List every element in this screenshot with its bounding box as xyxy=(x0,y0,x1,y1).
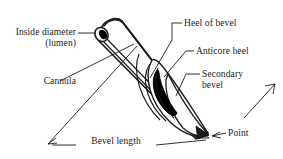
label-secondary-bevel-line1: Secondary xyxy=(202,69,243,79)
label-inside-diameter-line1: Inside diameter xyxy=(16,27,76,37)
label-bevel-length: Bevel length xyxy=(78,136,154,147)
label-secondary-bevel: Secondarybevel xyxy=(202,69,264,91)
bevel-length-extension-left xyxy=(48,46,137,144)
needle-anatomy-figure: Inside diameter(lumen) Cannula Heel of b… xyxy=(0,0,283,159)
bevel-length-baseline-right xyxy=(156,140,206,145)
label-secondary-bevel-line2: bevel xyxy=(202,80,223,90)
label-inside-diameter: Inside diameter(lumen) xyxy=(4,27,76,49)
label-cannula: Cannula xyxy=(24,76,76,87)
label-anticore-heel: Anticore heel xyxy=(196,46,282,57)
label-point: Point xyxy=(228,128,278,139)
label-heel-of-bevel: Heel of bevel xyxy=(184,18,280,29)
label-inside-diameter-line2: (lumen) xyxy=(45,38,76,48)
